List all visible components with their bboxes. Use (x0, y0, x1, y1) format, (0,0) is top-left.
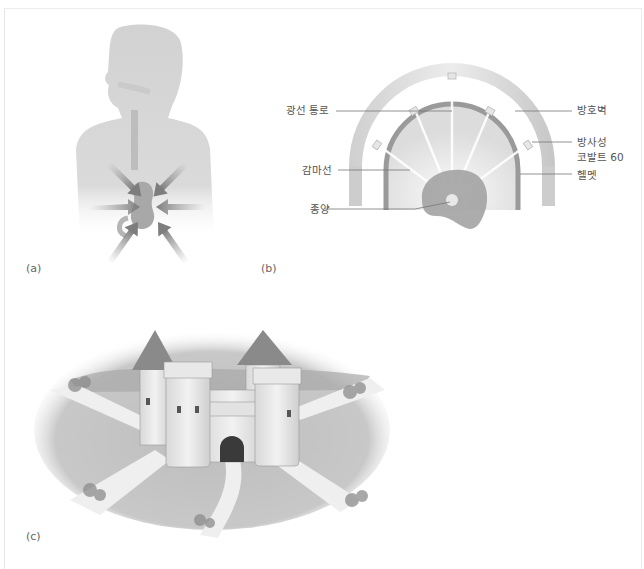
callout-cobalt-line2: 코발트 60 (577, 150, 624, 164)
panel-b: 광선 통로 방호벽 방사성 코발트 60 감마선 헬멧 종양 (b) (250, 40, 644, 280)
callout-shield-wall: 방호벽 (577, 103, 607, 117)
panel-a: (a) (0, 0, 260, 290)
callout-cobalt-line1: 방사성 (577, 135, 607, 149)
panel-label-c: (c) (26, 530, 41, 543)
castle-illustration (0, 290, 420, 554)
battlement-right (253, 368, 301, 384)
human-radiation-illustration (0, 0, 260, 290)
callout-gamma-ray: 감마선 (302, 163, 332, 177)
callout-tumor: 종양 (310, 202, 330, 216)
focal-point (446, 194, 458, 206)
panel-label-a: (a) (26, 262, 41, 275)
battlement-left (164, 362, 212, 378)
panel-c: (c) (0, 290, 420, 554)
callout-helmet: 헬멧 (577, 168, 597, 182)
callout-beam-channel: 광선 통로 (286, 103, 329, 117)
panel-label-b: (b) (261, 262, 277, 275)
esophagus (131, 110, 138, 170)
shield-wall-left-leg (349, 166, 362, 206)
castle-gate (220, 436, 244, 462)
tower-front-left (166, 375, 210, 467)
tower-front-right (255, 380, 299, 466)
shield-wall-right-leg (542, 166, 555, 206)
hills (70, 368, 370, 392)
